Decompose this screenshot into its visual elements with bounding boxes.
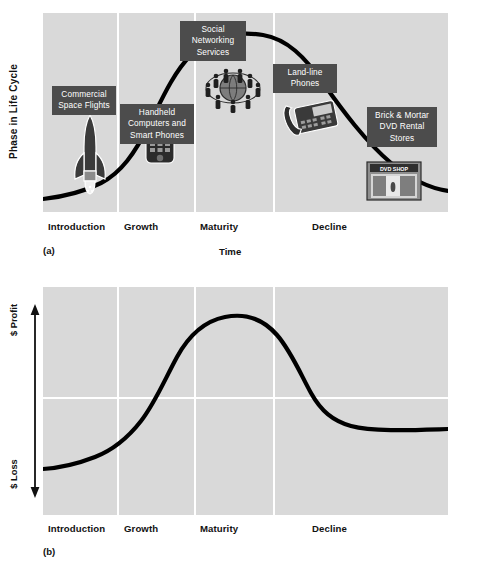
callout-line: Networking bbox=[184, 35, 242, 46]
callout-land-line-phones: Land-line Phones bbox=[273, 64, 337, 93]
callout-line: Services bbox=[184, 47, 242, 58]
panel-a-letter: (a) bbox=[43, 245, 55, 256]
space-shuttle-icon bbox=[69, 113, 111, 199]
xtick-b-decline: Decline bbox=[312, 523, 347, 534]
social-network-globe-icon bbox=[202, 61, 264, 117]
callout-line: DVD Rental bbox=[371, 121, 433, 132]
callout-brick-and-mortar-dvd: Brick & Mortar DVD Rental Stores bbox=[367, 107, 437, 147]
callout-line: Stores bbox=[371, 133, 433, 144]
callout-social-networking-services: Social Networking Services bbox=[180, 21, 246, 61]
xtick-a-decline: Decline bbox=[312, 221, 347, 232]
panel-b-y-axis-loss-label: $ Loss bbox=[9, 456, 19, 492]
panel-a-x-axis-title: Time bbox=[219, 246, 241, 257]
panel-b-plot-area bbox=[43, 287, 448, 515]
xtick-b-maturity: Maturity bbox=[200, 523, 238, 534]
callout-line: Phones bbox=[277, 78, 333, 89]
xtick-b-growth: Growth bbox=[124, 523, 158, 534]
callout-line: Space Flights bbox=[56, 100, 112, 111]
panel-b-y-axis-arrow bbox=[28, 301, 42, 501]
callout-commercial-space-flights: Commercial Space Flights bbox=[52, 86, 116, 115]
panel-b-profit-curve bbox=[43, 287, 448, 515]
panel-b-letter: (b) bbox=[43, 546, 55, 557]
callout-line: Brick & Mortar bbox=[371, 110, 433, 121]
callout-line: Computers and bbox=[124, 118, 190, 129]
callout-line: Social bbox=[184, 24, 242, 35]
callout-line: Commercial bbox=[56, 89, 112, 100]
xtick-a-maturity: Maturity bbox=[200, 221, 238, 232]
dvd-shop-sign-text: DVD SHOP bbox=[380, 166, 409, 172]
callout-line: Handheld bbox=[124, 107, 190, 118]
callout-line: Smart Phones bbox=[124, 130, 190, 141]
panel-a: Phase in Life Cycle bbox=[0, 0, 477, 275]
panel-b: $ Profit $ Loss Introduction Growth Matu… bbox=[0, 283, 477, 575]
panel-b-y-axis-profit-label: $ Profit bbox=[9, 300, 19, 340]
callout-handheld-computers: Handheld Computers and Smart Phones bbox=[120, 104, 194, 144]
panel-a-y-axis-title: Phase in Life Cycle bbox=[8, 27, 19, 197]
xtick-a-introduction: Introduction bbox=[48, 221, 105, 232]
xtick-b-introduction: Introduction bbox=[48, 523, 105, 534]
landline-telephone-icon bbox=[283, 96, 339, 142]
xtick-a-growth: Growth bbox=[124, 221, 158, 232]
dvd-shop-storefront-icon: DVD SHOP bbox=[366, 161, 422, 205]
callout-line: Land-line bbox=[277, 67, 333, 78]
